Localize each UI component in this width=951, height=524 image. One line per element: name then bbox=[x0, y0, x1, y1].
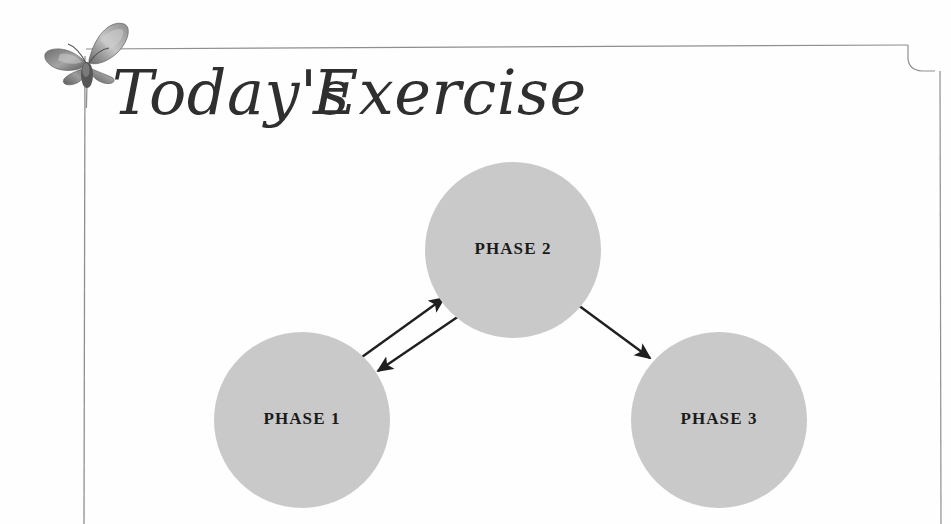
node-phase-3-label: PHASE 3 bbox=[680, 409, 757, 428]
node-phase-2-label: PHASE 2 bbox=[474, 239, 551, 258]
edge-phase2-to-phase1 bbox=[378, 316, 459, 371]
phase-diagram: PHASE 1 PHASE 2 PHASE 3 bbox=[0, 0, 951, 524]
worksheet-page: Today's Exercise PHASE 1 bbox=[0, 0, 951, 524]
node-phase-2[interactable]: PHASE 2 bbox=[425, 162, 601, 338]
node-phase-3[interactable]: PHASE 3 bbox=[631, 332, 807, 508]
edge-phase1-to-phase2 bbox=[355, 298, 444, 362]
node-phase-1[interactable]: PHASE 1 bbox=[214, 332, 390, 508]
phase-diagram-graphic: PHASE 1 PHASE 2 PHASE 3 bbox=[0, 0, 951, 524]
edge-phase2-to-phase3 bbox=[578, 305, 650, 358]
node-phase-1-label: PHASE 1 bbox=[263, 409, 340, 428]
